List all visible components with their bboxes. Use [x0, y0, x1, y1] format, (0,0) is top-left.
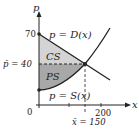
equilibrium-price-label: p̄ = 40 [3, 59, 32, 69]
consumer-surplus-label: CS [46, 51, 61, 62]
demand-intercept-point [37, 32, 41, 36]
surplus-diagram: p x 0 200 70 p̄ = 40 x̄ = 150 p = D(x) p… [0, 0, 139, 138]
y-tick-label: 70 [25, 29, 36, 39]
supply-intercept-point [37, 88, 41, 92]
producer-surplus-label: PS [45, 71, 60, 82]
x-axis-arrow-icon [125, 103, 131, 108]
y-axis-label: p [33, 2, 40, 13]
supply-curve-label: p = S(x) [49, 90, 91, 101]
demand-curve-label: p = D(x) [49, 29, 92, 40]
equilibrium-quantity-label: x̄ = 150 [72, 117, 106, 127]
origin-label: 0 [27, 107, 32, 117]
equilibrium-point [83, 62, 87, 66]
x-axis-label: x [132, 99, 138, 110]
